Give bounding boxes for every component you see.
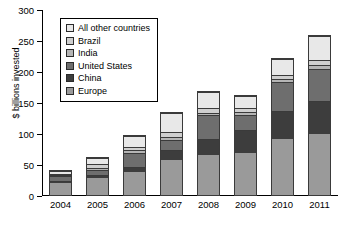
y-axis-tick xyxy=(37,196,42,197)
legend-item-label: Brazil xyxy=(78,36,101,46)
bar-segment xyxy=(272,111,293,139)
stacked-bar[interactable] xyxy=(271,58,294,196)
legend-item-label: China xyxy=(78,73,102,83)
bar-segment xyxy=(161,150,182,160)
bar-segment xyxy=(235,96,256,108)
legend-item[interactable]: Europe xyxy=(66,85,150,98)
bar-slot xyxy=(264,10,301,196)
legend-item-label: India xyxy=(78,48,98,58)
legend-item[interactable]: All other countries xyxy=(66,22,150,35)
legend-item-label: United States xyxy=(78,61,132,71)
bar-slot xyxy=(227,10,264,196)
x-axis-label: 2011 xyxy=(301,199,338,210)
stacked-bar[interactable] xyxy=(86,157,109,196)
bar-segment xyxy=(87,178,108,195)
bar-segment xyxy=(161,160,182,195)
stacked-bar[interactable] xyxy=(197,91,220,196)
bar-segment xyxy=(235,153,256,195)
stacked-bar[interactable] xyxy=(308,35,331,196)
bar-segment xyxy=(309,36,330,60)
x-axis-label: 2004 xyxy=(42,199,79,210)
bar-slot xyxy=(153,10,190,196)
bar-segment xyxy=(272,82,293,111)
stacked-bar[interactable] xyxy=(160,112,183,196)
legend-swatch-icon xyxy=(66,37,74,45)
x-axis-label: 2006 xyxy=(116,199,153,210)
y-axis-tick-label: 50 xyxy=(23,160,34,171)
legend-swatch-icon xyxy=(66,62,74,70)
bar-segment xyxy=(272,139,293,195)
legend-swatch-icon xyxy=(66,24,74,32)
legend-item-label: All other countries xyxy=(78,23,150,33)
bar-segment xyxy=(124,172,145,195)
legend-swatch-icon xyxy=(66,87,74,95)
x-axis-label: 2007 xyxy=(153,199,190,210)
y-axis-tick-label: 100 xyxy=(18,129,34,140)
legend-swatch-icon xyxy=(66,49,74,57)
y-axis-tick-label: 0 xyxy=(29,191,34,202)
bar-segment xyxy=(50,183,71,195)
stacked-bar[interactable] xyxy=(123,135,146,196)
legend-swatch-icon xyxy=(66,74,74,82)
legend-item[interactable]: China xyxy=(66,72,150,85)
bar-segment xyxy=(198,115,219,139)
bar-segment xyxy=(235,130,256,154)
x-axis-label: 2010 xyxy=(264,199,301,210)
x-axis-label: 2008 xyxy=(190,199,227,210)
x-axis-label: 2005 xyxy=(79,199,116,210)
bar-segment xyxy=(235,115,256,130)
bar-segment xyxy=(309,134,330,195)
legend-item-label: Europe xyxy=(78,86,107,96)
legend-item[interactable]: India xyxy=(66,47,150,60)
y-axis-tick-label: 300 xyxy=(18,5,34,16)
bar-segment xyxy=(309,101,330,134)
bar-segment xyxy=(161,140,182,150)
bar-segment xyxy=(198,139,219,155)
stacked-bar[interactable] xyxy=(234,95,257,196)
y-axis-tick-label: 250 xyxy=(18,36,34,47)
stacked-bar[interactable] xyxy=(49,170,72,196)
bar-segment xyxy=(198,155,219,195)
y-axis-tick-label: 200 xyxy=(18,67,34,78)
chart-legend: All other countriesBrazilIndiaUnited Sta… xyxy=(60,18,158,102)
legend-item[interactable]: Brazil xyxy=(66,35,150,48)
bar-segment xyxy=(124,153,145,167)
bar-segment xyxy=(309,69,330,101)
x-axis-labels: 20042005200620072008200920102011 xyxy=(42,199,338,210)
bar-segment xyxy=(124,136,145,147)
bar-segment xyxy=(198,92,219,108)
y-axis-tick-label: 150 xyxy=(18,98,34,109)
bar-segment xyxy=(272,59,293,75)
bar-segment xyxy=(161,113,182,132)
legend-item[interactable]: United States xyxy=(66,60,150,73)
bar-slot xyxy=(190,10,227,196)
bar-slot xyxy=(301,10,338,196)
stacked-bar-chart: $ billions invested 050100150200250300 2… xyxy=(0,0,344,226)
x-axis-label: 2009 xyxy=(227,199,264,210)
